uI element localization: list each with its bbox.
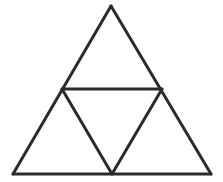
triangle-diagram — [0, 0, 223, 182]
diagram-background — [0, 0, 223, 182]
figure-canvas — [0, 0, 223, 182]
